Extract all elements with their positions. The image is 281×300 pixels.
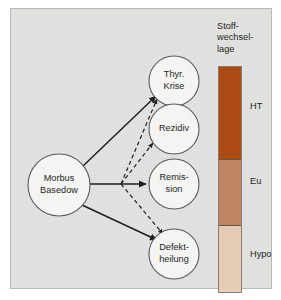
node-label-line1: Morbus <box>44 173 75 183</box>
scale-label-eu: Eu <box>250 176 261 186</box>
node-label-line2: Krise <box>164 81 185 91</box>
edges-solid <box>82 96 157 240</box>
node-label-line2: Basedow <box>40 185 78 195</box>
node-label-line1: Rezidiv <box>159 123 190 133</box>
node-rezidiv[interactable]: Rezidiv <box>149 104 199 154</box>
metabolic-state-scale: Stoff- wechsel- lage HT Eu Hypo <box>207 21 281 296</box>
edge-basedow-to-thyr-krise <box>83 96 156 166</box>
node-defektheilung[interactable]: Defekt- heilung <box>149 229 199 279</box>
scale-title: Stoff- wechsel- lage <box>217 21 281 55</box>
node-label-line2: sion <box>166 184 183 194</box>
node-label-line1: Thyr. <box>164 69 184 79</box>
scale-band-ht <box>219 67 241 159</box>
figure-panel: Morbus Basedow Thyr. Krise Rezidiv Remis… <box>10 8 272 289</box>
scale-label-ht: HT <box>250 101 262 111</box>
node-label-line2: heilung <box>159 254 189 264</box>
node-morbus-basedow[interactable]: Morbus Basedow <box>28 154 90 216</box>
node-label-line1: Remis- <box>159 172 188 182</box>
scale-bar <box>218 66 242 293</box>
node-thyr-krise[interactable]: Thyr. Krise <box>149 56 199 106</box>
edge-branch-to-rezidiv <box>121 143 153 184</box>
node-remission[interactable]: Remis- sion <box>149 159 199 209</box>
scale-label-hypo: Hypo <box>250 249 271 259</box>
scale-band-eu <box>219 159 241 224</box>
edge-basedow-to-defektheilung <box>82 205 157 240</box>
scale-band-hypo <box>219 225 241 293</box>
node-label-line1: Defekt- <box>159 242 189 252</box>
